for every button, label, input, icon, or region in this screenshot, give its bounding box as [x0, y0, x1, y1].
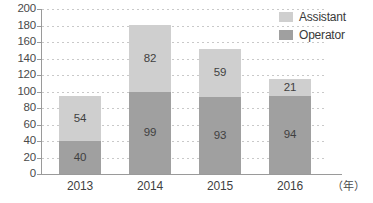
y-axis-tick-label: 40 — [0, 135, 36, 147]
y-axis-tick-label: 160 — [0, 36, 36, 48]
y-axis-tick-mark — [37, 75, 41, 76]
bar-segment-operator[interactable]: 93 — [199, 97, 241, 174]
legend-label: Operator — [299, 29, 345, 41]
bar-segment-assistant[interactable]: 59 — [199, 49, 241, 98]
bar-value-label: 99 — [144, 127, 156, 139]
x-axis-tick-label-2016: 2016 — [258, 180, 322, 192]
y-axis-tick-mark — [37, 92, 41, 93]
bar-group-2013[interactable]: 5440 — [59, 96, 101, 174]
y-axis-tick-mark — [37, 158, 41, 159]
legend-item-assistant[interactable]: Assistant — [279, 9, 373, 24]
stacked-bar-chart: 200180160140120100806040200 544082995993… — [0, 0, 373, 203]
bar-value-label: 94 — [284, 129, 296, 141]
bar-group-2016[interactable]: 2194 — [269, 79, 311, 174]
legend-label: Assistant — [299, 11, 346, 23]
y-axis-tick-label: 200 — [0, 3, 36, 15]
x-axis-tick-label-2015: 2015 — [188, 180, 252, 192]
bar-value-label: 40 — [74, 152, 86, 164]
y-axis-tick-label: 180 — [0, 20, 36, 32]
legend-item-operator[interactable]: Operator — [279, 27, 373, 42]
bar-value-label: 82 — [144, 53, 156, 65]
y-axis: 200180160140120100806040200 — [0, 0, 36, 203]
y-axis-tick-label: 100 — [0, 86, 36, 98]
y-axis-tick-label: 140 — [0, 53, 36, 65]
x-axis-unit-label: （年） — [332, 180, 365, 192]
bar-segment-operator[interactable]: 94 — [269, 96, 311, 174]
bar-value-label: 54 — [74, 113, 86, 125]
legend-swatch-icon — [279, 30, 293, 40]
y-axis-tick-mark — [37, 59, 41, 60]
y-axis-tick-mark — [37, 108, 41, 109]
bar-segment-operator[interactable]: 40 — [59, 141, 101, 174]
y-axis-tick-mark — [37, 42, 41, 43]
y-axis-tick-label: 60 — [0, 119, 36, 131]
x-axis-tick-label-2014: 2014 — [118, 180, 182, 192]
y-axis-tick-mark — [37, 125, 41, 126]
y-axis-tick-label: 80 — [0, 102, 36, 114]
y-axis-tick-label: 0 — [0, 168, 36, 180]
bar-value-label: 21 — [284, 82, 296, 94]
gridline — [42, 75, 325, 76]
gridline — [42, 59, 325, 60]
bar-segment-assistant[interactable]: 82 — [129, 25, 171, 93]
x-axis-tick-label-2013: 2013 — [48, 180, 112, 192]
legend-swatch-icon — [279, 12, 293, 22]
y-axis-tick-mark — [37, 141, 41, 142]
y-axis-tick-label: 120 — [0, 69, 36, 81]
bar-group-2015[interactable]: 5993 — [199, 49, 241, 174]
bar-group-2014[interactable]: 8299 — [129, 25, 171, 174]
bar-segment-operator[interactable]: 99 — [129, 92, 171, 174]
bar-value-label: 59 — [214, 67, 226, 79]
y-axis-tick-mark — [37, 174, 41, 175]
bar-segment-assistant[interactable]: 21 — [269, 79, 311, 96]
chart-legend: AssistantOperator — [279, 9, 373, 45]
bar-segment-assistant[interactable]: 54 — [59, 96, 101, 141]
y-axis-tick-mark — [37, 9, 41, 10]
bar-value-label: 93 — [214, 130, 226, 142]
y-axis-tick-mark — [37, 26, 41, 27]
y-axis-tick-label: 20 — [0, 152, 36, 164]
x-axis-line — [42, 174, 342, 175]
